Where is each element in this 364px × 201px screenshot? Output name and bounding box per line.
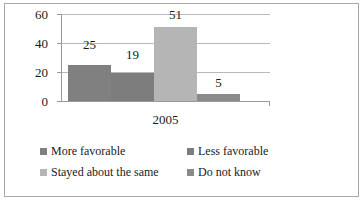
y-tick-mark-0: [57, 101, 62, 102]
bar-less-favorable[interactable]: [111, 73, 154, 101]
legend-swatch-icon: [40, 148, 47, 155]
legend-swatch-icon: [187, 148, 194, 155]
legend-swatch-icon: [187, 169, 194, 176]
y-tick-label-40: 40: [14, 37, 48, 50]
bar-do-not-know[interactable]: [197, 94, 240, 101]
y-tick-mark-20: [57, 72, 62, 73]
y-tick-mark-60: [57, 14, 62, 15]
x-axis-category-label: 2005: [61, 113, 270, 126]
legend-swatch-icon: [40, 169, 47, 176]
bar-more-favorable[interactable]: [68, 65, 111, 101]
bar-stayed-about-the-same[interactable]: [154, 27, 197, 101]
y-tick-mark-40: [57, 43, 62, 44]
bar-value-label-stayed-about-the-same: 51: [154, 8, 197, 21]
legend-item-less-favorable[interactable]: Less favorable: [187, 145, 268, 157]
legend-label-more-favorable: More favorable: [51, 145, 125, 157]
axis-baseline: [61, 101, 270, 102]
bar-value-label-less-favorable: 19: [111, 48, 154, 61]
chart-legend: More favorable Less favorable Stayed abo…: [40, 145, 320, 187]
bar-value-label-more-favorable: 25: [68, 38, 111, 51]
y-tick-label-60: 60: [14, 8, 48, 21]
y-tick-label-0: 0: [14, 95, 48, 108]
y-tick-label-20: 20: [14, 66, 48, 79]
plot-area: 60 40 20 0 25 19 51 5 2005: [0, 0, 364, 140]
legend-item-more-favorable[interactable]: More favorable: [40, 145, 187, 157]
legend-label-less-favorable: Less favorable: [198, 145, 268, 157]
legend-label-do-not-know: Do not know: [198, 166, 261, 178]
y-axis-line: [61, 14, 62, 101]
legend-label-stayed-about-the-same: Stayed about the same: [51, 166, 159, 178]
legend-item-do-not-know[interactable]: Do not know: [187, 166, 261, 178]
chart-figure: 60 40 20 0 25 19 51 5 2005 More favorabl…: [0, 0, 364, 201]
bar-value-label-do-not-know: 5: [197, 76, 240, 89]
x-axis-end-tick: [269, 101, 270, 106]
legend-row: Stayed about the same Do not know: [40, 166, 320, 187]
legend-row: More favorable Less favorable: [40, 145, 320, 166]
legend-item-stayed-about-the-same[interactable]: Stayed about the same: [40, 166, 187, 178]
